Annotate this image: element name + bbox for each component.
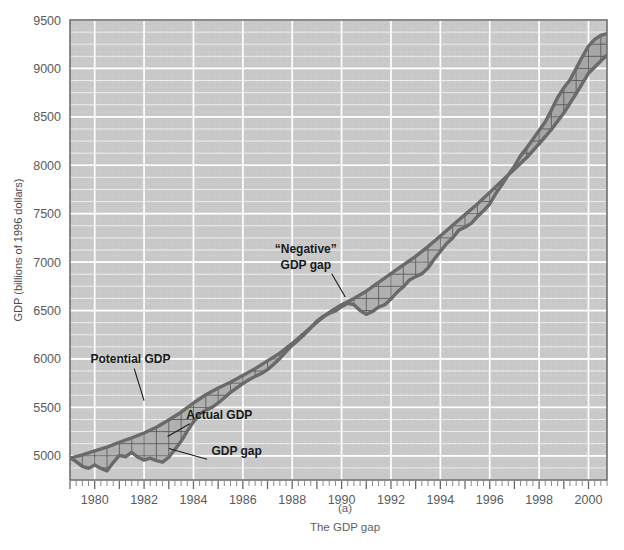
gdp-gap-figure: 5000550060006500700075008000850090009500… xyxy=(0,0,624,550)
plot-area xyxy=(70,20,607,480)
annotation-negative-gdp-gap-line2: GDP gap xyxy=(281,258,331,272)
x-tick-label: 1992 xyxy=(377,493,405,507)
x-tick-label: 1996 xyxy=(476,493,504,507)
y-tick-label: 8500 xyxy=(33,110,61,124)
annotation-negative-gdp-gap-line1: “Negative” xyxy=(275,242,337,256)
y-tick-label: 5500 xyxy=(33,401,61,415)
x-tick-label: 2000 xyxy=(575,493,603,507)
y-axis-label: GDP (billions of 1996 dollars) xyxy=(12,179,24,322)
x-tick-label: 1980 xyxy=(81,493,109,507)
y-tick-label: 9000 xyxy=(33,62,61,76)
x-tick-label: 1984 xyxy=(180,493,208,507)
caption-marker: (a) xyxy=(338,502,352,514)
x-tick-label: 1998 xyxy=(525,493,553,507)
y-tick-label: 6500 xyxy=(33,304,61,318)
x-tick-label: 1986 xyxy=(229,493,257,507)
annotation-actual-gdp: Actual GDP xyxy=(186,408,252,422)
y-tick-label: 8000 xyxy=(33,159,61,173)
annotation-potential-gdp: Potential GDP xyxy=(90,352,170,366)
y-tick-label: 6000 xyxy=(33,352,61,366)
y-tick-label: 5000 xyxy=(33,449,61,463)
y-tick-label: 7500 xyxy=(33,207,61,221)
x-tick-label: 1982 xyxy=(130,493,158,507)
gdp-gap-chart: 5000550060006500700075008000850090009500… xyxy=(0,0,624,550)
y-tick-label: 7000 xyxy=(33,256,61,270)
x-tick-label: 1994 xyxy=(426,493,454,507)
caption-title: The GDP gap xyxy=(310,521,380,533)
x-tick-label: 1988 xyxy=(278,493,306,507)
y-tick-label: 9500 xyxy=(33,14,61,28)
annotation-gdp-gap: GDP gap xyxy=(211,444,261,458)
